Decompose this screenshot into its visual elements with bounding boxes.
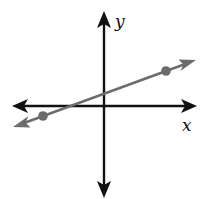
x-axis-label: x <box>182 115 192 135</box>
y-axis-label: y <box>114 11 125 31</box>
y-axis <box>97 11 111 198</box>
point-lower-left <box>38 111 48 121</box>
point-upper-right <box>161 66 171 76</box>
coordinate-plane: y x <box>0 0 216 199</box>
